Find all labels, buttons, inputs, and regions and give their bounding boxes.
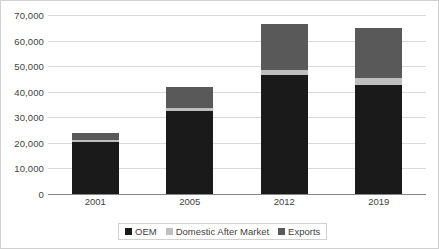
chart-container: 010,00020,00030,00040,00050,00060,00070,… [0, 0, 439, 249]
bar-segment[interactable] [261, 24, 308, 70]
legend-swatch-icon [125, 228, 132, 235]
bars-layer [48, 15, 426, 194]
bar-stack[interactable] [355, 28, 402, 194]
legend-item[interactable]: OEM [125, 226, 157, 237]
bar-segment[interactable] [72, 133, 119, 140]
bar-segment[interactable] [355, 28, 402, 78]
x-tick-label: 2019 [344, 196, 414, 207]
legend-label: Exports [288, 226, 320, 237]
bar-segment[interactable] [166, 111, 213, 194]
y-tick-label: 0 [39, 189, 44, 200]
legend-item[interactable]: Domestic After Market [166, 226, 269, 237]
legend-label: OEM [135, 226, 157, 237]
y-tick-label: 70,000 [14, 10, 44, 21]
y-tick-label: 30,000 [14, 112, 44, 123]
bar-segment[interactable] [166, 87, 213, 108]
axis-baseline [48, 194, 426, 195]
bar-segment[interactable] [355, 85, 402, 194]
bar-stack[interactable] [72, 133, 119, 194]
y-tick-label: 60,000 [14, 35, 44, 46]
x-tick-label: 2001 [60, 196, 130, 207]
y-axis: 010,00020,00030,00040,00050,00060,00070,… [1, 15, 44, 194]
x-tick-label: 2005 [155, 196, 225, 207]
y-tick-label: 10,000 [14, 163, 44, 174]
x-tick-label: 2012 [249, 196, 319, 207]
chart-legend: OEMDomestic After MarketExports [118, 223, 327, 240]
y-tick-label: 50,000 [14, 61, 44, 72]
bar-segment[interactable] [355, 78, 402, 86]
legend-label: Domestic After Market [176, 226, 269, 237]
y-tick-label: 40,000 [14, 86, 44, 97]
bar-segment[interactable] [72, 142, 119, 194]
legend-swatch-icon [166, 228, 173, 235]
legend-swatch-icon [278, 228, 285, 235]
bar-stack[interactable] [166, 87, 213, 194]
bar-segment[interactable] [261, 75, 308, 194]
x-axis: 2001200520122019 [48, 196, 426, 212]
legend-item[interactable]: Exports [278, 226, 320, 237]
bar-stack[interactable] [261, 24, 308, 194]
y-tick-label: 20,000 [14, 137, 44, 148]
